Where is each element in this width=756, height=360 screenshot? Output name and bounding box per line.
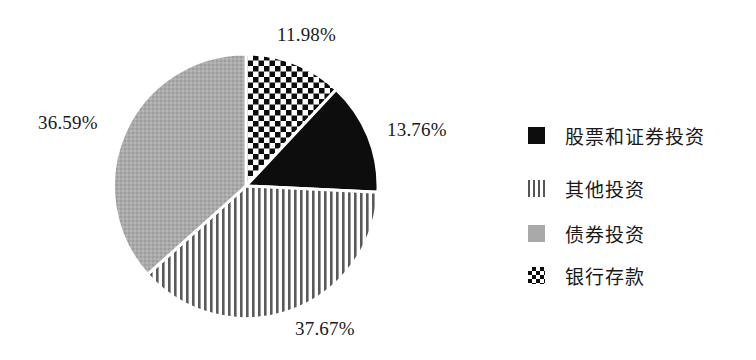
pie-value-label-stock-securities: 13.76% <box>387 119 447 141</box>
solid-black-swatch-icon <box>528 127 545 144</box>
chart-legend: 股票和证券投资 其他投资 债券投资 银行存款 <box>528 112 756 297</box>
pie-chart-figure: 11.98% 13.76% 36.59% 37.67% 股票和证券投资 其他投资… <box>0 0 756 360</box>
pie-chart-svg <box>0 0 470 360</box>
legend-item-other-investment[interactable]: 其他投资 <box>528 175 645 201</box>
pie-slices <box>113 54 378 319</box>
legend-label-bank-deposits: 银行存款 <box>565 262 645 289</box>
legend-item-bank-deposits[interactable]: 银行存款 <box>528 262 645 288</box>
checkerboard-swatch-icon <box>528 267 545 284</box>
pie-value-label-bank-deposits: 11.98% <box>277 24 336 46</box>
legend-label-bond-investment: 债券投资 <box>565 220 645 247</box>
pie-value-label-bond-investment: 36.59% <box>38 112 98 134</box>
legend-label-stock-securities: 股票和证券投资 <box>565 122 705 149</box>
legend-item-stock-securities[interactable]: 股票和证券投资 <box>528 122 705 148</box>
pie-chart-plot-area: 11.98% 13.76% 36.59% 37.67% <box>0 0 470 360</box>
legend-item-bond-investment[interactable]: 债券投资 <box>528 220 645 246</box>
legend-label-other-investment: 其他投资 <box>565 175 645 202</box>
pie-value-label-other-investment: 37.67% <box>295 318 355 340</box>
vertical-stripe-swatch-icon <box>528 180 545 197</box>
gray-swatch-icon <box>528 225 545 242</box>
